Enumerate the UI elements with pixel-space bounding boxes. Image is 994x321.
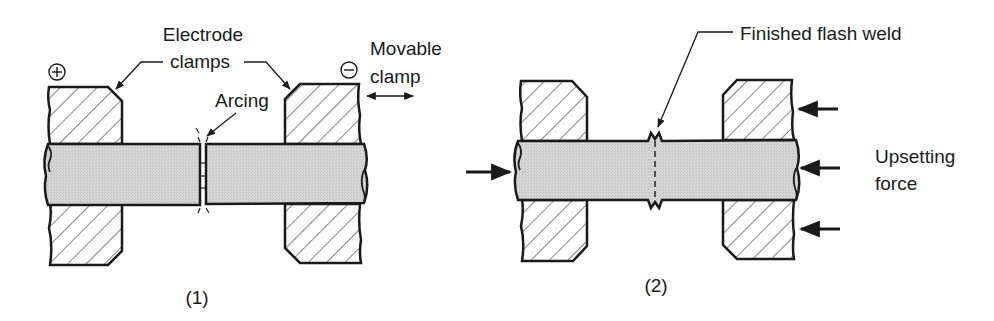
right-clamp-upper	[723, 80, 794, 140]
clamps-leader-left	[116, 62, 163, 89]
upsetting-force-label-line1: Upsetting	[875, 146, 955, 167]
left-electrode-clamp-upper	[48, 87, 122, 144]
left-clamp-upper	[520, 81, 587, 141]
negative-terminal-icon	[341, 62, 357, 78]
right-electrode-clamp-upper	[285, 84, 361, 144]
electrode-label-line1: Electrode	[163, 24, 243, 45]
left-electrode-clamp-lower	[49, 204, 122, 265]
panel-1: Electrode clamps Arcing Movable clamp (1…	[44, 24, 441, 308]
movable-clamp-label-line1: Movable	[370, 38, 442, 59]
right-electrode-clamp-lower	[285, 204, 361, 263]
left-clamp-lower	[521, 200, 587, 261]
right-clamp-lower	[723, 200, 794, 259]
finished-weld-label: Finished flash weld	[740, 23, 902, 44]
electrode-label-line2: clamps	[170, 51, 230, 72]
arcing-leader	[207, 113, 236, 136]
panel-1-caption: (1)	[185, 287, 208, 308]
clamps-leader-right	[244, 62, 290, 89]
upsetting-force-label-line2: force	[875, 173, 917, 194]
panel-2: Finished flash weld Upsetting force (2)	[466, 23, 955, 296]
welded-workpiece	[514, 133, 799, 208]
movable-clamp-label-line2: clamp	[370, 66, 421, 87]
panel-2-caption: (2)	[644, 275, 667, 296]
flash-welding-diagram: Electrode clamps Arcing Movable clamp (1…	[0, 0, 994, 321]
arcing-label: Arcing	[215, 90, 269, 111]
left-workpiece	[44, 144, 200, 205]
positive-terminal-icon	[49, 64, 65, 80]
right-workpiece	[206, 144, 367, 204]
